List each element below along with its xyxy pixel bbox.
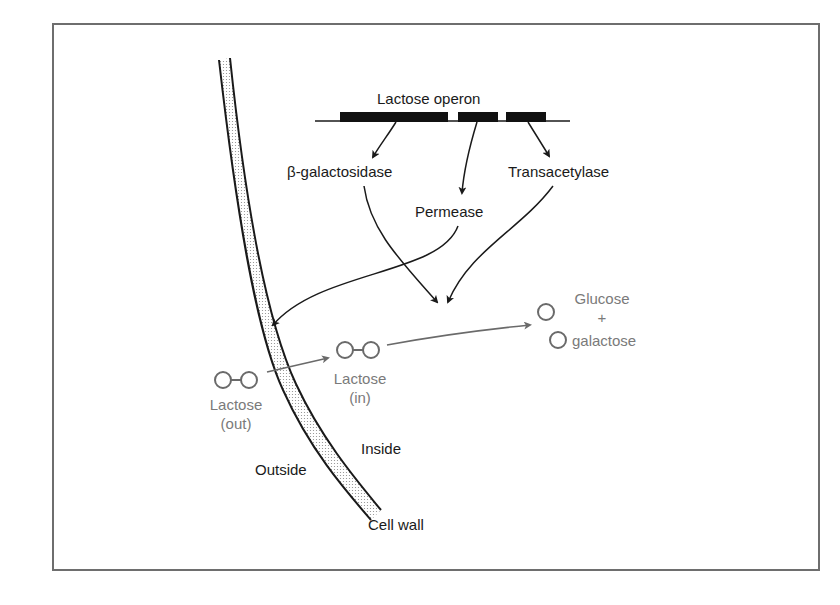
operon-title: Lactose operon: [377, 90, 480, 108]
arrow-to-permease: [462, 122, 477, 193]
arrow-to-beta-galactosidase: [373, 122, 396, 157]
arrow-to-transacetylase: [528, 122, 549, 156]
galactose-label: galactose: [572, 332, 636, 350]
lactose-out-molecule: [215, 372, 257, 388]
lactose-operon-gene-map: [315, 112, 570, 122]
lactose-out-sublabel: (out): [206, 415, 266, 433]
inside-label: Inside: [361, 440, 401, 458]
transacetylase-label: Transacetylase: [508, 163, 609, 181]
arrow-permease-action: [273, 226, 458, 325]
gene-block-a: [506, 112, 546, 122]
gene-block-z: [340, 112, 448, 122]
permease-label: Permease: [415, 203, 483, 221]
cell-wall: [219, 58, 381, 520]
lactose-in-sublabel: (in): [330, 389, 390, 407]
lactose-in-molecule: [337, 342, 379, 358]
lactose-out-label: Lactose: [206, 396, 266, 414]
cell-wall-label: Cell wall: [368, 516, 424, 534]
lactose-in-label: Lactose: [330, 370, 390, 388]
beta-galactosidase-label: β-galactosidase: [287, 163, 392, 181]
glucose-label: Glucose: [567, 290, 637, 308]
plus-sign: +: [567, 309, 637, 327]
arrow-hydrolysis: [387, 325, 530, 345]
outside-label: Outside: [255, 461, 307, 479]
glucose-galactose-molecules: [538, 304, 566, 348]
gene-block-y: [458, 112, 498, 122]
